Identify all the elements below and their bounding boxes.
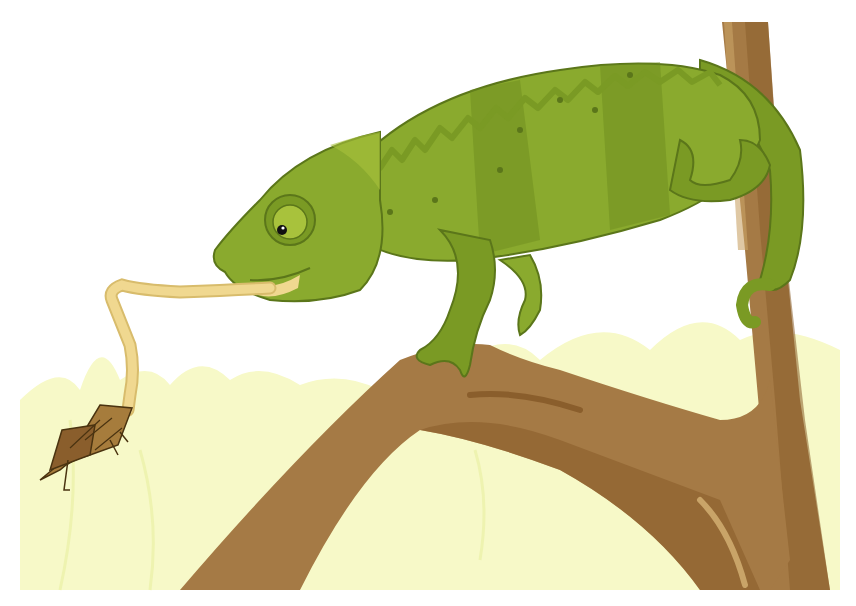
illustration: Chameleon catching a grasshopper with it… (0, 0, 856, 606)
chameleon-eye (265, 195, 315, 245)
pupil (277, 225, 287, 235)
chameleon-body (350, 62, 760, 261)
